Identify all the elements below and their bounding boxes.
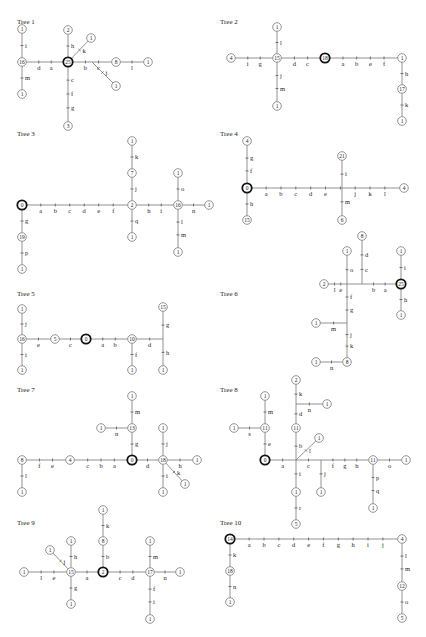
tree-title: Tree 1 bbox=[17, 18, 35, 26]
edge-label: d bbox=[309, 190, 313, 197]
edge-label: b bbox=[99, 462, 102, 469]
tree-node: 15 bbox=[67, 568, 76, 577]
node-label: 2 bbox=[323, 281, 326, 287]
edge-label: j bbox=[24, 320, 27, 327]
edge-label: i bbox=[25, 42, 27, 49]
node-label: 1 bbox=[70, 538, 73, 544]
tree-node: 7 bbox=[128, 169, 137, 178]
edge-label: f bbox=[71, 90, 74, 97]
node-label: 1 bbox=[90, 35, 93, 41]
tree-node: 2 bbox=[128, 201, 137, 210]
node-label: 1 bbox=[21, 489, 24, 495]
edge-label: i bbox=[160, 207, 162, 214]
node-label: 13 bbox=[129, 425, 135, 431]
node-label: 16 bbox=[19, 59, 25, 65]
root-node: 0 bbox=[17, 200, 26, 209]
edge-label: o bbox=[181, 185, 184, 192]
edge-label: m bbox=[135, 408, 140, 415]
edge-label: a bbox=[50, 64, 53, 71]
node-label: 1 bbox=[100, 425, 103, 431]
edge-label: m bbox=[331, 325, 336, 332]
node-label: 14 bbox=[227, 536, 233, 542]
edge-label: l bbox=[25, 472, 27, 479]
edge-label: l bbox=[131, 64, 133, 71]
node-label: 10 bbox=[129, 336, 135, 342]
edge-label: d bbox=[292, 541, 296, 548]
edge-label: h bbox=[250, 200, 254, 207]
edge-label: f bbox=[332, 462, 335, 469]
edge-label: k bbox=[350, 342, 354, 349]
edge-label: g bbox=[259, 60, 263, 67]
tree-node: 1 bbox=[369, 504, 378, 513]
edge-label: g bbox=[343, 462, 347, 469]
tree-node: 21 bbox=[338, 152, 347, 161]
edge-label: d bbox=[299, 410, 303, 417]
tree-node: 1 bbox=[87, 34, 96, 43]
edge-label: i bbox=[367, 541, 369, 548]
node-label: 0 bbox=[246, 185, 249, 191]
tree-node: 1 bbox=[97, 424, 106, 433]
node-label: 2 bbox=[295, 377, 298, 383]
node-label: 11 bbox=[370, 457, 376, 463]
tree-node: 1 bbox=[128, 233, 137, 242]
node-label: 25 bbox=[398, 281, 404, 287]
edge-label: i bbox=[153, 598, 155, 605]
tree-node: 1 bbox=[146, 537, 155, 546]
node-label: 8 bbox=[346, 359, 349, 365]
root-node: 0 bbox=[81, 334, 90, 343]
edge-label: h bbox=[178, 462, 182, 469]
tree-node: 16 bbox=[18, 58, 27, 67]
edge-label: n bbox=[192, 207, 196, 214]
tree-node: 1 bbox=[18, 25, 27, 34]
tree-node: 12 bbox=[398, 582, 407, 591]
tree-node: 1 bbox=[159, 366, 168, 375]
tree-node: 3 bbox=[64, 122, 73, 131]
node-label: 12 bbox=[399, 583, 405, 589]
edge-label: l bbox=[384, 190, 386, 197]
edge-label: n bbox=[233, 583, 237, 590]
node-label: 21 bbox=[339, 153, 345, 159]
tree-node: 1 bbox=[193, 456, 202, 465]
node-label: 18 bbox=[227, 568, 233, 574]
node-label: 8 bbox=[115, 59, 118, 65]
edge-label: b bbox=[299, 442, 302, 449]
tree-node: 1 bbox=[128, 392, 137, 401]
root-node: 0 bbox=[242, 183, 251, 192]
tree-node: 1 bbox=[159, 488, 168, 497]
node-label: 4 bbox=[69, 457, 72, 463]
tree-node: 8 bbox=[99, 537, 108, 546]
edge-label: b bbox=[114, 341, 117, 348]
tree-node: 1 bbox=[397, 247, 406, 256]
tree-node: 1 bbox=[273, 23, 282, 32]
edge-label: h bbox=[147, 207, 151, 214]
edge-label: e bbox=[339, 286, 342, 293]
tree-node: 1 bbox=[159, 424, 168, 433]
edge-label: n bbox=[308, 406, 312, 413]
node-label: 17 bbox=[399, 86, 405, 92]
edge-label: f bbox=[38, 462, 41, 469]
root-node: 25 bbox=[63, 57, 72, 66]
edge-label: n bbox=[163, 574, 167, 581]
edge-label: g bbox=[71, 104, 75, 111]
edge-label: m bbox=[25, 74, 30, 81]
node-label: 16 bbox=[175, 202, 181, 208]
node-label: 3 bbox=[67, 123, 70, 129]
edge-label: a bbox=[101, 341, 104, 348]
root-node: 14 bbox=[225, 534, 234, 543]
node-label: 1 bbox=[162, 425, 165, 431]
edge-label: f bbox=[250, 167, 253, 174]
edge-label: c bbox=[119, 574, 122, 581]
node-label: 7 bbox=[131, 170, 134, 176]
tree-node: 1 bbox=[261, 392, 270, 401]
node-label: 1 bbox=[177, 170, 180, 176]
node-label: 1 bbox=[318, 435, 321, 441]
tree-title: Tree 2 bbox=[220, 18, 238, 26]
tree-node: 1 bbox=[398, 117, 407, 126]
edge-label: i bbox=[345, 170, 347, 177]
tree-4: Tree 4fghabcdejklim04152164 bbox=[220, 130, 408, 224]
edge-label: p bbox=[25, 249, 28, 256]
tree-node: 1 bbox=[315, 434, 324, 443]
edge-label: g bbox=[74, 584, 78, 591]
edge-label: m bbox=[181, 231, 186, 238]
tree-node: 15 bbox=[243, 216, 252, 225]
